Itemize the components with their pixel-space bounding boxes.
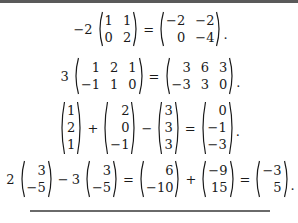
equals-sign: =	[185, 121, 196, 136]
cell: 3	[164, 137, 172, 153]
cell: 2	[110, 60, 118, 76]
vector-4: −9 15	[200, 160, 235, 198]
cell: 6	[146, 163, 173, 179]
equals-sign: =	[123, 172, 134, 187]
right-paren-icon	[175, 160, 181, 198]
cell: 1	[67, 137, 75, 153]
matrix-rhs: 3 6 3 −3 3 0	[164, 57, 236, 95]
period: .	[236, 124, 240, 139]
top-border	[0, 0, 298, 3]
cell: 2	[67, 120, 75, 136]
cell: −1	[208, 120, 227, 136]
plus-sign: +	[87, 121, 98, 136]
right-paren-icon	[139, 57, 145, 95]
equation-1: −2 1 1 0 2 = −2 −2 0 −4 .	[0, 10, 298, 48]
cell: 1	[81, 60, 100, 76]
bottom-rule	[30, 210, 270, 212]
right-paren-icon	[230, 160, 236, 198]
period: .	[236, 75, 240, 90]
cell: 15	[208, 180, 227, 196]
vector-3: 3 3 3	[156, 101, 180, 155]
right-paren-icon	[48, 160, 54, 198]
right-paren-icon	[133, 11, 139, 47]
cell: 1	[123, 13, 131, 29]
scalar: 3	[61, 69, 69, 84]
cell: 1	[105, 13, 113, 29]
cell: 1	[128, 60, 136, 76]
right-paren-icon	[131, 101, 137, 155]
right-paren-icon	[175, 101, 181, 155]
cell: 0	[219, 77, 227, 93]
cell: 0	[208, 103, 227, 119]
cell: 3	[164, 120, 172, 136]
right-paren-icon	[113, 160, 119, 198]
matrix-lhs: 1 1 0 2	[97, 11, 140, 47]
vector-2: 3 −5	[84, 160, 119, 198]
cell: −9	[208, 163, 227, 179]
right-paren-icon	[229, 57, 235, 95]
cell: −1	[110, 137, 129, 153]
equals-sign: =	[149, 69, 160, 84]
right-paren-icon	[77, 101, 83, 155]
vector-1: 3 −5	[19, 160, 54, 198]
cell: 0	[128, 77, 136, 93]
cell: 3	[201, 77, 209, 93]
period: .	[223, 27, 227, 42]
minus-sign: −	[58, 172, 69, 187]
right-paren-icon	[216, 11, 222, 47]
period: .	[291, 178, 295, 193]
cell: 0	[166, 30, 185, 46]
equation-3: 1 2 1 + 2 0 −1 − 3 3 3 = 0 −1 −3 .	[0, 100, 298, 156]
cell: 0	[105, 30, 113, 46]
matrix-rhs: −2 −2 0 −4	[158, 11, 222, 47]
cell: −4	[195, 30, 214, 46]
scalar: 2	[6, 172, 14, 187]
cell: 0	[110, 120, 129, 136]
scalar: −2	[73, 22, 92, 37]
equals-sign: =	[240, 172, 251, 187]
vector-result: −3 5	[254, 160, 289, 198]
cell: −1	[81, 77, 100, 93]
cell: 2	[110, 103, 129, 119]
vector-1: 1 2 1	[59, 101, 83, 155]
cell: 2	[123, 30, 131, 46]
cell: −5	[92, 180, 111, 196]
cell: 6	[201, 60, 209, 76]
minus-sign: −	[141, 121, 152, 136]
vector-2: 2 0 −1	[102, 101, 137, 155]
cell: −5	[27, 180, 46, 196]
cell: 3	[92, 163, 111, 179]
equation-2: 3 1 2 1 −1 1 0 = 3 6 3 −3 3 0 .	[0, 56, 298, 96]
cell: 3	[27, 163, 46, 179]
matrix-lhs: 1 2 1 −1 1 0	[73, 57, 145, 95]
right-paren-icon	[284, 160, 290, 198]
cell: −2	[195, 13, 214, 29]
vector-result: 0 −1 −3	[200, 101, 235, 155]
cell: 3	[219, 60, 227, 76]
cell: 1	[110, 77, 118, 93]
cell: 5	[262, 180, 281, 196]
equation-4: 2 3 −5 − 3 3 −5 = 6 −10 + −9 15 =	[0, 159, 298, 199]
plus-sign: +	[185, 172, 196, 187]
equals-sign: =	[143, 22, 154, 37]
vector-3: 6 −10	[138, 160, 181, 198]
cell: −3	[208, 137, 227, 153]
cell: 1	[67, 103, 75, 119]
cell: 3	[172, 60, 191, 76]
cell: −2	[166, 13, 185, 29]
cell: −3	[172, 77, 191, 93]
scalar: 3	[72, 172, 80, 187]
right-paren-icon	[229, 101, 235, 155]
cell: −3	[262, 163, 281, 179]
cell: 3	[164, 103, 172, 119]
cell: −10	[146, 180, 173, 196]
